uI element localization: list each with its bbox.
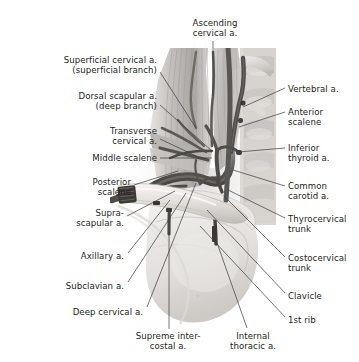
label-axillary: Axillary a. <box>22 251 124 261</box>
label-transverse-cervical: Transverse cervical a. <box>38 126 157 147</box>
label-supreme-intercostal: Supreme inter- costal a. <box>126 331 210 352</box>
label-deep-cervical: Deep cervical a. <box>26 307 143 317</box>
illustration-body <box>112 48 295 324</box>
label-first-rib: 1st rib <box>288 315 358 325</box>
label-ascending-cervical: Ascending cervical a. <box>172 18 258 39</box>
label-middle-scalene: Middle scalene <box>26 153 157 163</box>
label-inferior-thyroid: Inferior thyroid a. <box>288 143 358 164</box>
label-subclavian: Subclavian a. <box>22 281 124 291</box>
label-internal-thoracic: Internal thoracic a. <box>216 331 290 352</box>
label-anterior-scalene: Anterior scalene <box>288 107 358 128</box>
label-superficial-cervical: Superficial cervical a. (superficial bra… <box>12 55 157 76</box>
label-suprascapular: Supra- scapular a. <box>14 208 124 229</box>
label-costocervical-trunk: Costocervical trunk <box>288 253 359 274</box>
label-dorsal-scapular: Dorsal scapular a. (deep branch) <box>16 91 157 112</box>
label-thyrocervical-trunk: Thyrocervical trunk <box>288 214 359 235</box>
label-clavicle: Clavicle <box>288 291 358 301</box>
label-posterior-scalene: Posterior scalene <box>22 177 131 198</box>
label-common-carotid: Common carotid a. <box>288 181 358 202</box>
label-vertebral: Vertebral a. <box>288 84 358 94</box>
